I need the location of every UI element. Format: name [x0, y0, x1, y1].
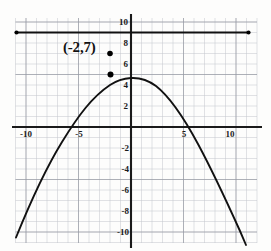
vertex-label: (-2,7)	[63, 40, 96, 55]
y-tick-label-2: 2	[124, 102, 129, 111]
grid-lines-major	[16, 18, 258, 243]
x-tick-label-5: 5	[182, 130, 187, 139]
x-tick-label-neg5: -5	[75, 130, 83, 139]
y-tick-label-neg2: -2	[122, 144, 130, 153]
y-tick-label-neg4: -4	[122, 165, 130, 174]
y-tick-label-10: 10	[119, 18, 128, 27]
coordinate-plane	[0, 0, 271, 251]
y-tick-label-8: 8	[124, 39, 129, 48]
grid-lines	[16, 18, 258, 243]
y-tick-label-neg8: -8	[122, 207, 130, 216]
y-tick-label-4: 4	[124, 81, 129, 90]
y-tick-label-neg10: -10	[117, 228, 129, 237]
x-tick-label-neg10: -10	[20, 130, 32, 139]
x-tick-label-10: 10	[226, 130, 235, 139]
graph-figure: 10 8 6 4 2 -2 -4 -6 -8 -10 -10 -5 5 10 (…	[0, 0, 271, 251]
y-tick-label-6: 6	[124, 60, 129, 69]
vertex-point	[107, 51, 113, 57]
plotted-point	[108, 72, 114, 78]
y-tick-label-neg6: -6	[122, 186, 130, 195]
